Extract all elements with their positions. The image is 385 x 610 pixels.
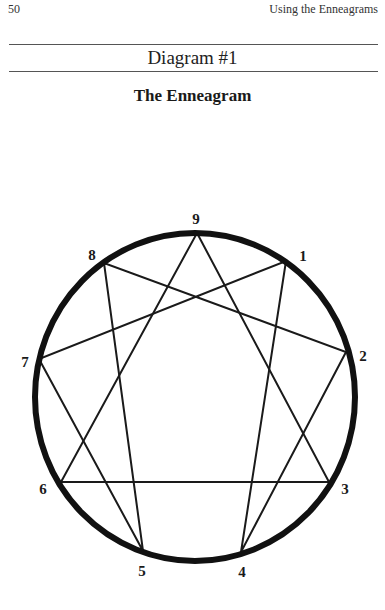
enneagram-hexad [39,261,346,552]
point-label-2: 2 [359,348,367,364]
enneagram-triangle [61,233,329,482]
point-label-4: 4 [238,564,246,580]
enneagram-circle [35,233,355,561]
enneagram-point-labels: 912345678 [21,211,367,580]
point-label-9: 9 [192,211,200,227]
point-label-3: 3 [341,481,349,497]
point-label-8: 8 [88,247,96,263]
point-label-6: 6 [39,481,47,497]
point-label-7: 7 [21,354,29,370]
point-label-1: 1 [299,248,307,264]
point-label-5: 5 [138,563,146,579]
enneagram-diagram: 912345678 [0,0,385,610]
